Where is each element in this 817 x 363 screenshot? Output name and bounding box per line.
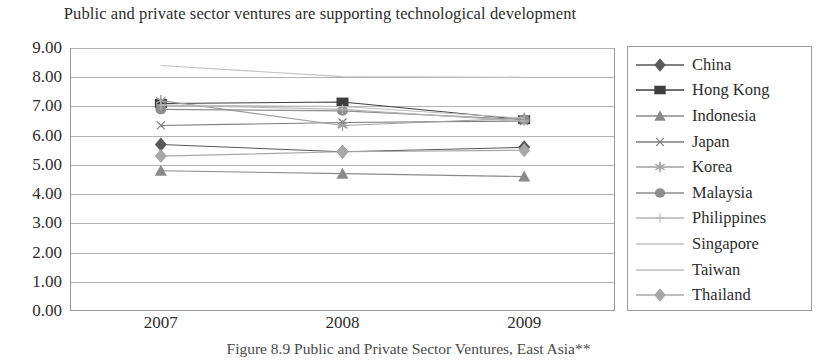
- series-singapore: [161, 66, 524, 78]
- legend-item-japan[interactable]: Japan: [634, 129, 811, 155]
- x-axis-tick-label: 2007: [144, 313, 178, 333]
- legend-item-philippines[interactable]: Philippines: [634, 206, 811, 232]
- x-axis-tick-label: 2008: [326, 313, 360, 333]
- y-axis-tick-label: 9.00: [32, 38, 62, 58]
- legend-item-indonesia[interactable]: Indonesia: [634, 103, 811, 129]
- legend-label: Indonesia: [686, 106, 756, 126]
- legend-marker-diamond2-icon: [634, 286, 686, 304]
- y-axis-tick-label: 1.00: [32, 272, 62, 292]
- legend-marker-none-icon: [634, 235, 686, 253]
- legend-marker-x-icon: [634, 133, 686, 151]
- legend-marker-triangle-icon: [634, 107, 686, 125]
- chart-legend: ChinaHong KongIndonesiaJapanKoreaMalaysi…: [627, 46, 812, 311]
- figure-caption: Figure 8.9 Public and Private Sector Ven…: [0, 340, 817, 358]
- legend-label: Hong Kong: [686, 80, 769, 100]
- legend-item-hong-kong[interactable]: Hong Kong: [634, 78, 811, 104]
- legend-item-taiwan[interactable]: Taiwan: [634, 257, 811, 283]
- y-axis-tick-label: 2.00: [32, 243, 62, 263]
- legend-marker-none-icon: [634, 261, 686, 279]
- chart-title: Public and private sector ventures are s…: [0, 4, 640, 24]
- legend-item-china[interactable]: China: [634, 52, 811, 78]
- legend-label: Thailand: [686, 285, 751, 305]
- legend-label: Japan: [686, 132, 730, 152]
- x-axis: 200720082009: [70, 313, 615, 339]
- legend-item-thailand[interactable]: Thailand: [634, 282, 811, 308]
- legend-label: Singapore: [686, 234, 759, 254]
- y-axis-tick-label: 7.00: [32, 96, 62, 116]
- series-indonesia: [155, 165, 530, 182]
- legend-item-singapore[interactable]: Singapore: [634, 231, 811, 257]
- series-layer: [70, 48, 615, 311]
- y-axis-tick-label: 8.00: [32, 67, 62, 87]
- legend-marker-plus-icon: [634, 209, 686, 227]
- legend-marker-circle-icon: [634, 184, 686, 202]
- y-axis: 0.001.002.003.004.005.006.007.008.009.00: [0, 48, 66, 311]
- legend-label: Korea: [686, 157, 732, 177]
- legend-marker-diamond-icon: [634, 56, 686, 74]
- legend-marker-star-icon: [634, 158, 686, 176]
- figure-container: Public and private sector ventures are s…: [0, 0, 817, 363]
- legend-marker-square-icon: [634, 81, 686, 99]
- y-axis-tick-label: 4.00: [32, 184, 62, 204]
- legend-label: China: [686, 55, 731, 75]
- legend-label: Philippines: [686, 208, 766, 228]
- y-axis-tick-label: 6.00: [32, 126, 62, 146]
- legend-label: Taiwan: [686, 260, 740, 280]
- legend-item-korea[interactable]: Korea: [634, 154, 811, 180]
- y-axis-tick-label: 3.00: [32, 213, 62, 233]
- legend-item-malaysia[interactable]: Malaysia: [634, 180, 811, 206]
- x-axis-tick-label: 2009: [507, 313, 541, 333]
- y-axis-tick-label: 0.00: [32, 301, 62, 321]
- legend-label: Malaysia: [686, 183, 752, 203]
- y-axis-tick-label: 5.00: [32, 155, 62, 175]
